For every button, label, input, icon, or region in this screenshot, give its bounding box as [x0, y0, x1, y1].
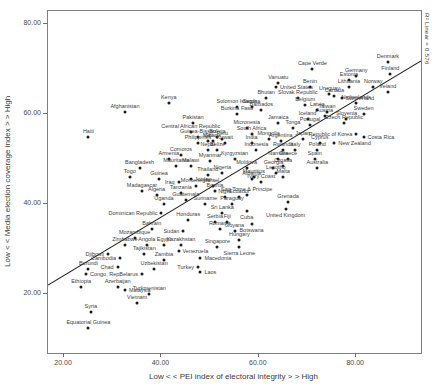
- point-label: Rwanda: [273, 141, 293, 147]
- point-label: Fiji: [224, 213, 231, 219]
- point-label: Argentina: [269, 132, 293, 138]
- point-label: Bhutan: [257, 89, 274, 95]
- data-point: [372, 86, 375, 89]
- point-label: Malawi: [182, 157, 199, 163]
- point-label: Azerbaijan: [105, 278, 131, 284]
- x-tick-label: 80.00: [335, 359, 375, 366]
- data-point: [194, 185, 197, 188]
- point-label: Namibia: [268, 150, 288, 156]
- point-label: Poland: [309, 141, 326, 147]
- plot-area: DenmarkFinlandNorwayIrelandGermanyEstoni…: [47, 10, 422, 354]
- data-point: [250, 223, 253, 226]
- data-point: [177, 180, 180, 183]
- point-label: Micronesia: [233, 119, 260, 125]
- point-label: Slovak Republic: [278, 89, 317, 95]
- point-label: United Kingdom: [266, 212, 305, 218]
- data-point: [177, 250, 180, 253]
- point-label: Cuba: [240, 214, 253, 220]
- x-axis-title: Low < < PEI index of electoral integrity…: [47, 372, 420, 381]
- data-point: [333, 142, 336, 145]
- point-label: Indonesia: [244, 141, 268, 147]
- point-label: Kyrgyzstan: [221, 150, 248, 156]
- point-label: Finland: [381, 65, 399, 71]
- data-point: [328, 92, 331, 95]
- data-point: [340, 97, 343, 100]
- data-point: [138, 167, 141, 170]
- point-label: Portugal: [300, 116, 321, 122]
- point-label: Dominican Republic: [109, 210, 158, 216]
- data-point: [355, 101, 358, 104]
- data-point: [216, 245, 219, 248]
- data-point: [84, 272, 87, 275]
- point-label: Spain: [308, 150, 322, 156]
- data-point: [179, 153, 182, 156]
- data-point: [279, 140, 282, 143]
- data-point: [196, 266, 199, 269]
- data-point: [347, 86, 350, 89]
- data-point: [343, 122, 346, 125]
- data-point: [162, 203, 165, 206]
- point-label: Honduras: [176, 211, 200, 217]
- point-label: Moldova: [236, 159, 257, 165]
- data-point: [182, 230, 185, 233]
- data-point: [179, 243, 182, 246]
- data-point: [362, 135, 365, 138]
- data-point: [87, 135, 90, 138]
- y-axis-title: Low < < Media election coverage index > …: [3, 10, 15, 352]
- data-point: [140, 272, 143, 275]
- point-label: Zambia: [155, 251, 173, 257]
- data-point: [245, 209, 248, 212]
- point-label: Vietnam: [127, 294, 147, 300]
- data-point: [291, 126, 294, 129]
- data-point: [386, 90, 389, 93]
- data-point: [311, 68, 314, 71]
- data-point: [167, 101, 170, 104]
- point-label: Afghanistan: [110, 103, 139, 109]
- y-tick-mark: [43, 113, 47, 114]
- data-point: [128, 176, 131, 179]
- data-point: [116, 266, 119, 269]
- point-label: Turkey: [177, 264, 194, 270]
- y-tick-mark: [43, 23, 47, 24]
- y-tick-mark: [43, 203, 47, 204]
- point-label: Iceland: [299, 110, 317, 116]
- point-label: Haiti: [83, 128, 94, 134]
- data-point: [233, 158, 236, 161]
- data-point: [175, 164, 178, 167]
- data-point: [153, 268, 156, 271]
- data-point: [123, 243, 126, 246]
- data-point: [204, 203, 207, 206]
- point-label: Algeria: [148, 186, 165, 192]
- data-point: [145, 243, 148, 246]
- data-point: [123, 288, 126, 291]
- point-label: Costa Rica: [368, 134, 395, 140]
- data-point: [255, 149, 258, 152]
- data-point: [333, 95, 336, 98]
- point-label: Togo: [124, 168, 136, 174]
- point-label: Ivory Coast: [247, 173, 275, 179]
- point-label: Syria: [85, 303, 98, 309]
- data-point: [123, 110, 126, 113]
- data-point: [287, 200, 290, 203]
- data-point: [184, 198, 187, 201]
- data-point: [216, 149, 219, 152]
- data-point: [199, 257, 202, 260]
- point-label: Equatorial Guinea: [66, 319, 110, 325]
- point-label: Ethiopia: [71, 278, 91, 284]
- y-tick-mark: [43, 293, 47, 294]
- data-point: [189, 164, 192, 167]
- point-label: Uzbekistan: [141, 260, 168, 266]
- point-label: Sri Lanka: [211, 204, 234, 210]
- point-label: Cape Verde: [298, 60, 327, 66]
- x-tick-mark: [160, 353, 161, 357]
- point-label: Kenya: [161, 94, 177, 100]
- x-tick-mark: [63, 353, 64, 357]
- data-point: [260, 180, 263, 183]
- x-tick-label: 20.00: [43, 359, 83, 366]
- point-label: Sao Tome & Principe: [221, 186, 272, 192]
- point-label: Pakistan: [183, 114, 204, 120]
- point-label: Lithuania: [338, 78, 360, 84]
- data-point: [158, 178, 161, 181]
- point-label: Djibouti: [86, 251, 104, 257]
- data-point: [206, 173, 209, 176]
